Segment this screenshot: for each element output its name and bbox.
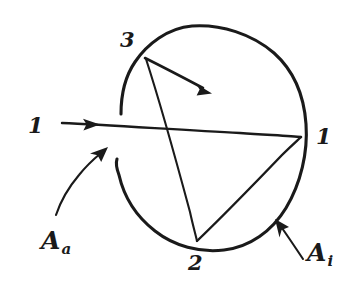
area-i-base: A: [307, 238, 326, 267]
leader-arrow-area-a: [56, 147, 108, 215]
inflow-line: [62, 119, 301, 137]
vertex-label-2: 2: [188, 252, 203, 273]
inflow-label-1: 1: [28, 114, 43, 136]
vertex-label-1: 1: [316, 125, 331, 147]
area-i-subscript: i: [327, 252, 333, 270]
area-a-subscript: a: [61, 240, 71, 258]
vertex-label-3: 3: [120, 29, 135, 50]
area-a-base: A: [41, 226, 60, 255]
area-a-label: Aa: [41, 228, 71, 257]
area-i-label: Ai: [307, 240, 333, 269]
figure-canvas: 3 2 1 1 Aa Ai: [0, 0, 364, 297]
outer-boundary-curve: [116, 26, 306, 251]
inscribed-triangle: [146, 59, 301, 241]
arrow-down-right-icon: [196, 84, 212, 96]
leader-arrow-area-i: [275, 219, 303, 259]
